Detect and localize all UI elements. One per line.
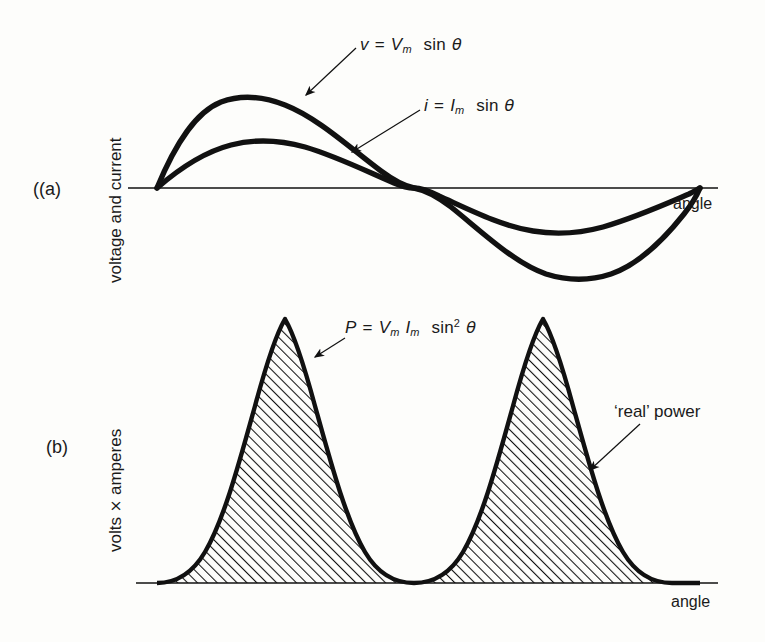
power-annotation-leader xyxy=(315,338,345,357)
real-power-label: ‘real’ power xyxy=(614,403,700,420)
current-equation-function: sin xyxy=(476,96,498,115)
panel-b-x-axis-label: angle xyxy=(671,594,710,610)
panel-b-y-axis-label-suffix: amperes xyxy=(106,429,125,500)
panel-a-tag: ((a) xyxy=(33,180,61,198)
real-power-annotation-leader xyxy=(590,424,640,470)
voltage-equation-amplitude: V xyxy=(391,35,403,54)
power-equation-exponent: 2 xyxy=(454,317,460,329)
power-equation-label: P=VmImsin2θ xyxy=(345,318,476,338)
panel-b-y-axis-label: volts × amperes xyxy=(106,429,126,552)
power-equation-function: sin xyxy=(432,318,454,337)
current-equation-label: i=Imsinθ xyxy=(424,97,515,116)
current-annotation-leader xyxy=(352,110,420,152)
voltage-equation-amplitude-subscript: m xyxy=(402,43,411,55)
voltage-annotation-leader xyxy=(306,48,356,95)
voltage-equation-function: sin xyxy=(424,35,446,54)
current-equation-equals: = xyxy=(434,96,444,115)
panel-b-plot xyxy=(136,319,718,583)
panel-a-y-axis-label: voltage and current xyxy=(106,137,126,283)
power-equation-voltage-subscript: m xyxy=(390,326,399,338)
power-equation-equals: = xyxy=(363,318,373,337)
figure-root: v=Vmsinθ i=Imsinθ P=VmImsin2θ ‘real’ pow… xyxy=(0,0,765,642)
multiplication-sign-icon: × xyxy=(107,500,125,513)
power-equation-angle: θ xyxy=(466,318,476,337)
panel-a-x-axis-label: angle xyxy=(673,196,712,212)
current-equation-amplitude-subscript: m xyxy=(455,104,464,116)
power-equation-current-subscript: m xyxy=(410,326,419,338)
voltage-equation-angle: θ xyxy=(452,35,462,54)
voltage-equation-label: v=Vmsinθ xyxy=(360,36,462,55)
panel-a-plot xyxy=(128,48,718,279)
voltage-equation-variable: v xyxy=(360,35,369,54)
current-equation-variable: i xyxy=(424,96,428,115)
current-curve xyxy=(157,141,700,233)
panel-b-tag: (b) xyxy=(46,438,68,456)
power-equation-variable: P xyxy=(345,318,357,337)
power-equation-voltage-amplitude: V xyxy=(379,318,391,337)
voltage-equation-equals: = xyxy=(375,35,385,54)
panel-b-y-axis-label-prefix: volts xyxy=(106,512,125,552)
current-equation-angle: θ xyxy=(505,96,515,115)
